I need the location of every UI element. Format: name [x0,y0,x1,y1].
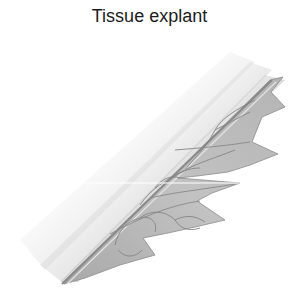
tissue-explant-illustration [0,0,299,291]
shadow-region [20,52,285,282]
